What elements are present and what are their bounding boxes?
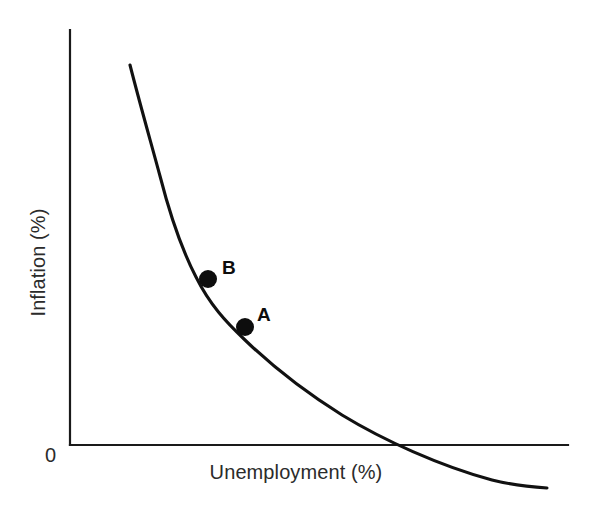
data-point-a-marker[interactable] bbox=[236, 318, 254, 336]
phillips-curve-figure: Inflation (%) Unemployment (%) 0 B A bbox=[0, 0, 595, 514]
phillips-curve-path bbox=[130, 65, 547, 488]
data-point-b-marker[interactable] bbox=[199, 270, 217, 288]
origin-label: 0 bbox=[45, 444, 56, 467]
chart-canvas bbox=[0, 0, 595, 514]
x-axis-label: Unemployment (%) bbox=[165, 461, 427, 484]
data-point-a-label: A bbox=[257, 305, 271, 324]
y-axis-label: Inflation (%) bbox=[27, 173, 50, 353]
data-point-b-label: B bbox=[222, 258, 236, 277]
